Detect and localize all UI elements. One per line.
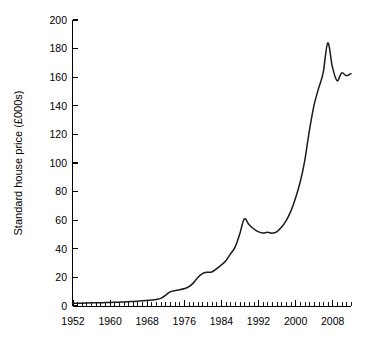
y-tick-label: 60 [55, 214, 67, 226]
x-axis-tick-labels: 1952 1960 1968 1976 1984 1992 2000 2008 [61, 315, 344, 327]
y-tick-label: 40 [55, 243, 67, 255]
y-tick-label: 200 [49, 14, 67, 26]
y-tick-label: 100 [49, 157, 67, 169]
x-tick-label: 1976 [173, 315, 197, 327]
y-axis-tick-labels: 200 180 160 140 120 100 80 60 40 20 0 [49, 14, 67, 312]
line-chart: Standard house price (£000s) 200 180 160… [0, 0, 366, 347]
y-tick-label: 120 [49, 128, 67, 140]
x-tick-label: 1968 [136, 315, 160, 327]
x-tick-label: 1984 [210, 315, 234, 327]
y-axis-ticks [73, 20, 78, 306]
y-tick-label: 20 [55, 271, 67, 283]
y-tick-label: 180 [49, 42, 67, 54]
y-tick-label: 160 [49, 71, 67, 83]
y-tick-label: 0 [61, 300, 67, 312]
y-tick-label: 140 [49, 100, 67, 112]
x-tick-label: 2000 [284, 315, 308, 327]
x-tick-label: 1952 [61, 315, 85, 327]
y-tick-label: 80 [55, 185, 67, 197]
x-tick-label: 1992 [247, 315, 271, 327]
x-tick-label: 2008 [321, 315, 345, 327]
chart-figure: Standard house price (£000s) 200 180 160… [0, 0, 366, 347]
house-price-line [73, 43, 352, 303]
y-axis-title: Standard house price (£000s) [12, 91, 24, 236]
x-tick-label: 1960 [98, 315, 122, 327]
